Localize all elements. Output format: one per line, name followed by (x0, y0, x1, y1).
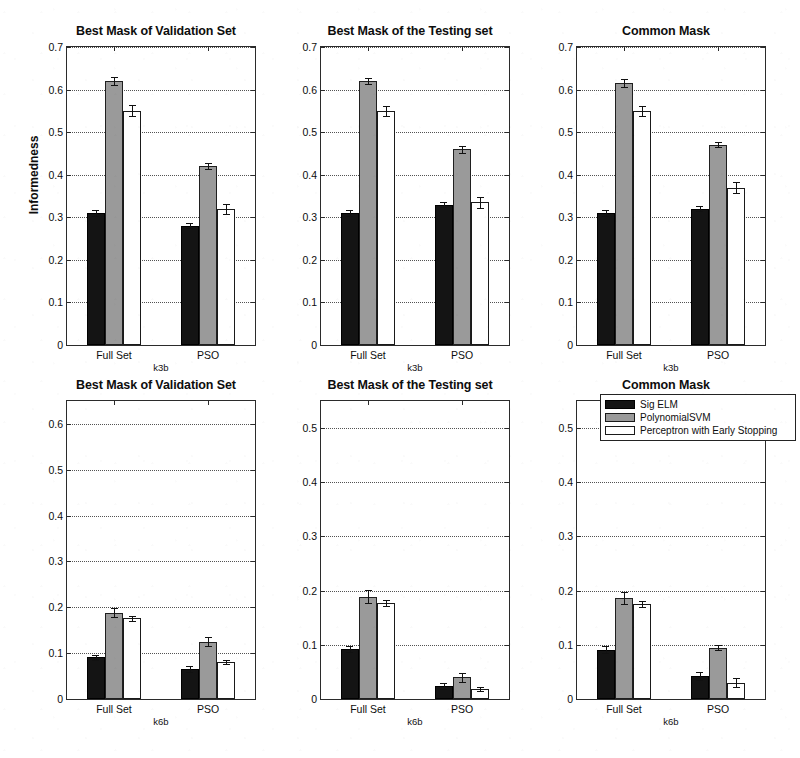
y-tick-mark (251, 345, 255, 346)
bar (123, 111, 141, 345)
error-bar-cap (129, 621, 136, 622)
error-bar-cap (365, 84, 372, 85)
y-tick-mark (577, 217, 581, 218)
plot-area: 00.10.20.30.40.50.6Full SetPSOk6b (66, 400, 256, 700)
y-tick-mark (761, 47, 765, 48)
error-bar-cap (383, 116, 390, 117)
y-tick-mark (505, 47, 509, 48)
error-bar-cap (205, 646, 212, 647)
bar (199, 642, 217, 699)
y-tick-mark (251, 653, 255, 654)
error-bar (462, 146, 463, 153)
error-bar (208, 637, 209, 646)
y-tick-label: 0.2 (302, 254, 321, 266)
error-bar-cap (186, 223, 193, 224)
legend-swatch-sig-elm (605, 400, 635, 409)
bar (341, 213, 359, 345)
y-tick-mark (321, 302, 325, 303)
panel-title: Best Mask of the Testing set (310, 24, 510, 38)
y-tick-mark (251, 90, 255, 91)
panel-k6b-testing: Best Mask of the Testing set 00.10.20.30… (310, 378, 510, 723)
y-axis-label: Informedness (27, 120, 41, 230)
error-bar-cap (459, 673, 466, 674)
bar (105, 81, 123, 345)
error-bar-cap (205, 637, 212, 638)
y-tick-mark (67, 516, 71, 517)
y-tick-label: 0.3 (302, 211, 321, 223)
y-tick-mark (505, 132, 509, 133)
y-tick-mark (67, 47, 71, 48)
panel-k3b-testing: Best Mask of the Testing set 00.10.20.30… (310, 24, 510, 369)
bar (181, 226, 199, 345)
error-bar-cap (346, 210, 353, 211)
error-bar-cap (223, 664, 230, 665)
x-tick-label: PSO (451, 349, 473, 361)
error-bar-cap (92, 660, 99, 661)
y-tick-mark (67, 302, 71, 303)
x-tick-label: PSO (197, 703, 219, 715)
y-tick-mark (321, 260, 325, 261)
y-tick-mark (505, 482, 509, 483)
error-bar (624, 79, 625, 87)
y-tick-label: 0 (567, 339, 577, 351)
bar (359, 81, 377, 345)
bar (105, 613, 123, 699)
error-bar (736, 678, 737, 687)
y-tick-mark (251, 470, 255, 471)
error-bar-cap (346, 216, 353, 217)
y-tick-mark (761, 260, 765, 261)
y-tick-mark (321, 132, 325, 133)
error-bar (386, 106, 387, 116)
y-tick-mark (251, 561, 255, 562)
x-tick-mark-top (114, 47, 115, 51)
error-bar-cap (383, 606, 390, 607)
legend-item: Perceptron with Early Stopping (605, 424, 791, 437)
error-bar-cap (639, 607, 646, 608)
y-tick-label: 0 (57, 693, 67, 705)
error-bar (462, 673, 463, 682)
legend-swatch-polynomial-svm (605, 413, 635, 422)
error-bar-cap (383, 600, 390, 601)
x-axis-label: k3b (407, 362, 422, 373)
y-tick-label: 0.2 (48, 254, 67, 266)
y-tick-label: 0.5 (48, 126, 67, 138)
y-tick-label: 0.2 (558, 585, 577, 597)
y-tick-mark (761, 591, 765, 592)
gridline (321, 132, 509, 133)
y-tick-mark (67, 653, 71, 654)
gridline (577, 90, 765, 91)
y-tick-mark (67, 470, 71, 471)
y-tick-label: 0.2 (48, 601, 67, 613)
error-bar-cap (477, 208, 484, 209)
y-tick-mark (761, 217, 765, 218)
y-tick-mark (505, 591, 509, 592)
error-bar-cap (440, 683, 447, 684)
gridline (577, 132, 765, 133)
error-bar-cap (715, 147, 722, 148)
error-bar-cap (715, 142, 722, 143)
panel-title: Best Mask of the Testing set (310, 378, 510, 392)
legend-label: PolynomialSVM (640, 412, 711, 423)
y-tick-label: 0.6 (302, 84, 321, 96)
y-tick-mark (251, 217, 255, 218)
y-tick-label: 0.7 (302, 41, 321, 53)
error-bar-cap (459, 682, 466, 683)
gridline (67, 470, 255, 471)
x-tick-label: Full Set (350, 349, 386, 361)
error-bar-cap (383, 106, 390, 107)
bar (471, 202, 489, 345)
error-bar-cap (733, 182, 740, 183)
y-tick-label: 0.7 (48, 41, 67, 53)
y-tick-label: 0.5 (302, 422, 321, 434)
gridline (67, 90, 255, 91)
y-tick-mark (251, 47, 255, 48)
y-tick-mark (577, 536, 581, 537)
y-tick-mark (321, 536, 325, 537)
x-axis-label: k3b (153, 362, 168, 373)
error-bar (368, 78, 369, 85)
y-tick-label: 0.1 (558, 639, 577, 651)
y-tick-label: 0 (567, 693, 577, 705)
y-tick-mark (321, 482, 325, 483)
error-bar-cap (602, 653, 609, 654)
gridline (321, 90, 509, 91)
